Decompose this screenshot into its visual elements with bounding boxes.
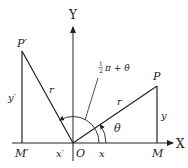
r-left-label: r [49,84,55,95]
r-right-label: r [117,96,123,107]
point-M-prime-label: M′ [14,147,29,160]
point-P-prime-label: P′ [16,37,27,50]
origin-label: O [76,147,85,160]
theta-arc [101,125,107,143]
point-M-label: M [151,147,164,160]
fraction-denominator: 2 [99,67,103,74]
x-axis-label: X [176,137,185,151]
segment-OP-prime [22,51,73,143]
fraction-numerator: 1 [99,60,103,67]
y-left-label: y′ [7,92,17,103]
rotation-diagram: Y X O P P′ M M′ r r y y′ x x′ θ 1 2 π + … [0,0,188,168]
y-axis-label: Y [68,8,78,22]
x-left-label: x′ [56,148,65,159]
rotated-angle-label: π + θ [104,63,130,73]
point-P-label: P [152,70,161,83]
theta-label: θ [114,122,121,135]
y-right-label: y [160,110,167,121]
x-right-label: x [99,148,105,159]
angle-leader-line [85,78,98,120]
